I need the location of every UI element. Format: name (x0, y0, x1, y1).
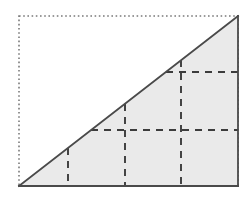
figure-container (0, 0, 249, 201)
triangle-diagram (0, 0, 249, 201)
